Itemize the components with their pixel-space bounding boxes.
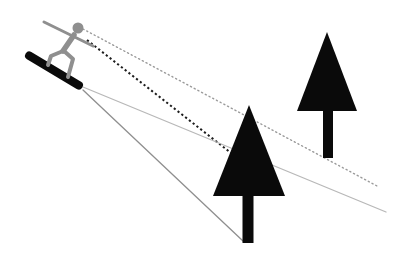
snowboarder-head — [73, 23, 84, 34]
near-tree-trunk — [243, 192, 254, 243]
slope-line-dark — [83, 90, 243, 241]
far-tree-canopy — [297, 32, 357, 111]
far-tree-trunk — [323, 107, 333, 158]
diagram-svg — [0, 0, 397, 268]
snowboarder-leg-1 — [48, 51, 63, 65]
near-tree-canopy — [213, 105, 285, 196]
diagram-page — [0, 0, 397, 268]
